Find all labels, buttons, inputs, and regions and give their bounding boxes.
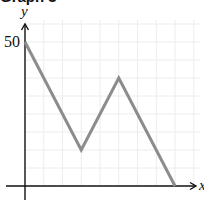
line-chart bbox=[0, 0, 204, 209]
grid bbox=[25, 20, 200, 186]
y-axis-label: y bbox=[21, 3, 28, 20]
y-tick-label: 50 bbox=[4, 33, 20, 51]
x-axis-label: x bbox=[199, 177, 204, 194]
